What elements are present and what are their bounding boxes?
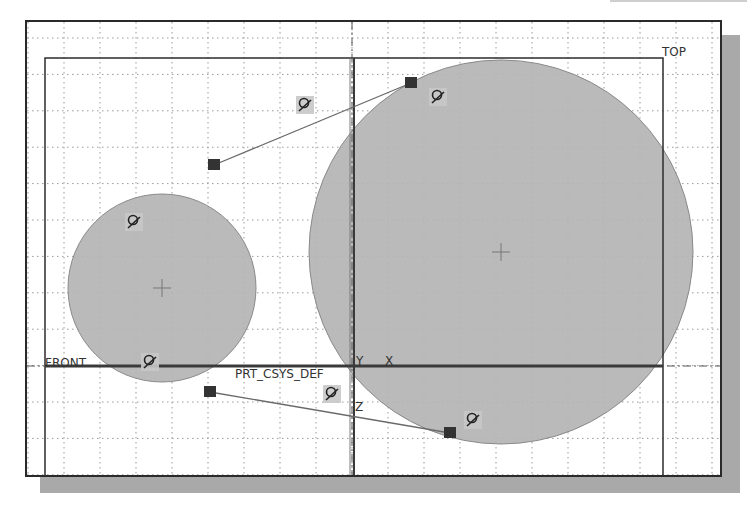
lower-line-end-point[interactable] (444, 427, 456, 438)
front-datum-label[interactable]: FRONT (45, 357, 86, 369)
top-datum-label[interactable]: TOP (662, 46, 686, 58)
csys-x-axis-label: X (385, 355, 393, 367)
lower-line-start-point[interactable] (204, 386, 216, 397)
sketch-canvas[interactable] (0, 0, 747, 510)
upper-line-end-point[interactable] (405, 77, 417, 88)
csys-z-axis-label: Z (355, 401, 363, 413)
upper-line-start-point[interactable] (208, 159, 220, 170)
tangent-constraint-icon[interactable] (464, 411, 482, 429)
tangent-constraint-icon[interactable] (125, 213, 143, 231)
csys-label[interactable]: PRT_CSYS_DEF (235, 368, 324, 380)
tangent-constraint-icon[interactable] (323, 385, 341, 403)
tangent-constraint-icon[interactable] (429, 88, 447, 106)
tangent-constraint-icon[interactable] (141, 353, 159, 371)
csys-y-axis-label: Y (356, 355, 363, 367)
tangent-constraint-icon[interactable] (296, 96, 314, 114)
sketch-circles (68, 60, 693, 444)
